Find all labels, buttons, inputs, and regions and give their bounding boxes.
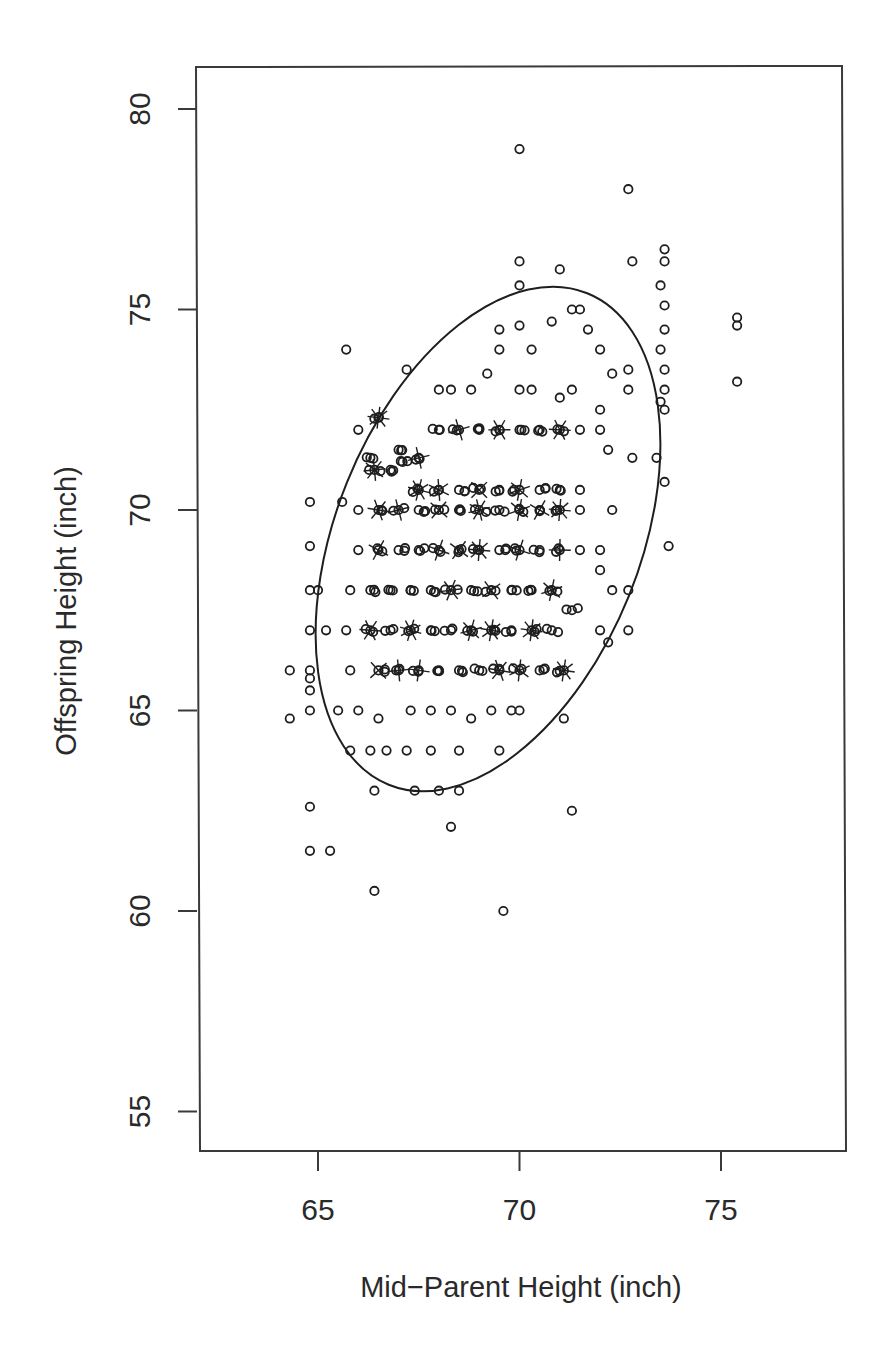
data-point	[286, 666, 294, 674]
data-point	[342, 345, 350, 353]
data-point	[370, 887, 378, 895]
data-point	[527, 345, 535, 353]
data-point	[374, 714, 382, 722]
data-point	[306, 586, 314, 594]
data-point	[584, 325, 592, 333]
data-point	[495, 325, 503, 333]
data-point	[576, 426, 584, 434]
data-point	[576, 486, 584, 494]
data-point	[467, 386, 475, 394]
data-point	[467, 714, 475, 722]
data-points	[286, 145, 742, 915]
data-point	[354, 506, 362, 514]
data-point	[527, 386, 535, 394]
data-point	[576, 305, 584, 313]
confidence-ellipse	[248, 236, 728, 841]
data-point	[562, 605, 570, 613]
data-point	[576, 546, 584, 554]
data-point	[628, 454, 636, 462]
data-point	[402, 746, 410, 754]
data-point	[733, 377, 741, 385]
scatter-chart: 556065707580 657075 Mid−Parent Height (i…	[0, 0, 886, 1356]
data-point	[427, 746, 435, 754]
data-point	[346, 586, 354, 594]
data-point	[306, 803, 314, 811]
data-point	[515, 281, 523, 289]
data-point	[447, 386, 455, 394]
data-point	[306, 542, 314, 550]
data-point	[556, 265, 564, 273]
data-point	[660, 478, 668, 486]
data-point	[596, 626, 604, 634]
data-point	[596, 426, 604, 434]
sunflower-petals	[359, 407, 574, 681]
data-point	[381, 627, 389, 635]
data-point	[455, 787, 463, 795]
data-point	[487, 706, 495, 714]
y-tick-label: 75	[123, 293, 156, 326]
data-point	[596, 406, 604, 414]
petal-stroke	[478, 539, 480, 561]
data-point	[604, 446, 612, 454]
data-point	[628, 257, 636, 265]
data-point	[515, 145, 523, 153]
data-point	[354, 426, 362, 434]
data-point	[447, 706, 455, 714]
data-point	[447, 823, 455, 831]
data-point	[660, 257, 668, 265]
x-tick-label: 70	[503, 1193, 536, 1226]
x-tick-label: 65	[301, 1193, 334, 1226]
data-point	[483, 369, 491, 377]
data-point	[660, 406, 668, 414]
data-point	[624, 365, 632, 373]
data-point	[515, 706, 523, 714]
data-point	[342, 626, 350, 634]
y-axis: 556065707580	[123, 92, 197, 1128]
data-point	[382, 746, 390, 754]
data-point	[608, 506, 616, 514]
data-point	[346, 666, 354, 674]
x-axis: 657075	[301, 1151, 737, 1226]
data-point	[326, 847, 334, 855]
data-point	[495, 345, 503, 353]
data-point	[624, 185, 632, 193]
data-point	[656, 281, 664, 289]
data-point	[624, 386, 632, 394]
data-point	[515, 386, 523, 394]
data-point	[660, 325, 668, 333]
data-point	[660, 365, 668, 373]
data-point	[660, 301, 668, 309]
y-axis-label: Offspring Height (inch)	[50, 466, 82, 756]
x-tick-label: 75	[704, 1193, 737, 1226]
data-point	[548, 317, 556, 325]
data-point	[515, 257, 523, 265]
data-point	[660, 386, 668, 394]
data-point	[608, 369, 616, 377]
y-tick-label: 70	[123, 493, 156, 526]
data-point	[507, 706, 515, 714]
x-axis-label: Mid−Parent Height (inch)	[360, 1271, 682, 1303]
data-point	[660, 245, 668, 253]
data-point	[306, 847, 314, 855]
plot-area	[196, 66, 846, 1151]
y-tick-label: 55	[123, 1095, 156, 1128]
plot-frame	[196, 66, 846, 1151]
data-point	[306, 706, 314, 714]
data-point	[499, 907, 507, 915]
data-point	[596, 566, 604, 574]
data-point	[306, 686, 314, 694]
data-point	[664, 542, 672, 550]
data-point	[568, 305, 576, 313]
y-tick-label: 80	[123, 92, 156, 125]
data-point	[306, 626, 314, 634]
data-point	[568, 807, 576, 815]
data-point	[406, 706, 414, 714]
data-point	[608, 586, 616, 594]
data-point	[306, 498, 314, 506]
data-point	[322, 626, 330, 634]
y-tick-label: 65	[123, 694, 156, 727]
data-point	[576, 506, 584, 514]
y-tick-label: 60	[123, 894, 156, 927]
data-point	[354, 706, 362, 714]
data-point	[455, 746, 463, 754]
